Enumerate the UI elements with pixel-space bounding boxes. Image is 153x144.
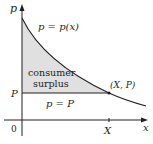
price-line-label: p = P [46,98,74,109]
origin-label: 0 [11,124,17,134]
equilibrium-point [107,91,110,94]
y-tick-label: P [10,88,18,99]
region-label-line2: surplus [33,78,69,89]
y-axis-label: p [10,2,17,15]
x-tick-label: X [103,125,112,136]
point-label: (X, P) [110,80,136,90]
y-axis-arrow-icon [20,4,25,11]
region-label-line1: consumer [28,67,76,78]
consumer-surplus-diagram: p x 0 P X p = p(x) p = P (X, P) consumer… [0,0,153,144]
curve-label: p = p(x) [38,21,79,32]
x-axis-label: x [143,122,149,133]
